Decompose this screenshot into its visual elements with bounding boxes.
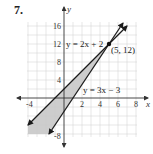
- x-tick-label: 6: [116, 100, 120, 109]
- x-tick-label: 4: [98, 100, 102, 109]
- y-tick-label: -8: [54, 132, 61, 141]
- x-tick-label: 2: [80, 100, 84, 109]
- graph: -4 2 4 6 8 16 12 8 4 -8 x y y = 2x + 2 y…: [0, 0, 153, 154]
- y-tick-label: 4: [57, 76, 61, 85]
- equation-label-line1: y = 2x + 2: [66, 39, 103, 49]
- x-axis-label: x: [145, 99, 150, 109]
- x-tick-label: -4: [26, 100, 33, 109]
- intersection-label: (5, 12): [111, 45, 135, 55]
- y-tick-label: 12: [53, 40, 61, 49]
- equation-label-line2: y = 3x − 3: [83, 85, 121, 95]
- y-tick-label: 8: [57, 58, 61, 67]
- y-tick-label: 16: [53, 22, 61, 31]
- y-axis-label: y: [66, 4, 71, 14]
- x-tick-label: 8: [134, 100, 138, 109]
